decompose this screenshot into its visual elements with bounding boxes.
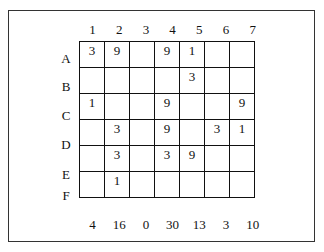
column-header: 3 (132, 22, 159, 38)
grid-cell: 9 (155, 94, 180, 120)
grid-cell (205, 42, 230, 68)
grid-cell (230, 68, 255, 94)
grid-row-c: 1 9 9 (80, 94, 255, 120)
column-header: 2 (106, 22, 133, 38)
grid-cell (130, 68, 155, 94)
row-header: C (56, 108, 76, 124)
grid-cell: 3 (105, 120, 130, 146)
grid-cell: 1 (230, 120, 255, 146)
grid-row-f: 1 (80, 172, 255, 198)
column-total: 13 (186, 217, 213, 233)
grid-cell: 3 (80, 42, 105, 68)
grid-cell (80, 172, 105, 198)
grid-cell: 9 (155, 120, 180, 146)
grid-cell: 3 (180, 68, 205, 94)
grid-cell (230, 42, 255, 68)
grid-cell (205, 146, 230, 172)
grid-cell: 9 (230, 94, 255, 120)
grid-cell (205, 68, 230, 94)
grid-cell (180, 120, 205, 146)
grid-row-b: 3 (80, 68, 255, 94)
column-total: 16 (106, 217, 133, 233)
grid-cell (130, 120, 155, 146)
grid-cell: 9 (155, 42, 180, 68)
row-header: E (56, 167, 76, 183)
grid-cell (180, 94, 205, 120)
grid-cell: 3 (155, 146, 180, 172)
grid-cell (230, 172, 255, 198)
grid-row-e: 3 3 9 (80, 146, 255, 172)
column-header: 1 (79, 22, 106, 38)
column-total: 10 (239, 217, 266, 233)
grid-cell (130, 94, 155, 120)
row-header: F (56, 188, 76, 204)
grid-cell (155, 172, 180, 198)
grid-cell (130, 42, 155, 68)
column-total: 3 (213, 217, 240, 233)
grid-cell (80, 68, 105, 94)
column-header: 7 (239, 22, 266, 38)
grid-cell: 3 (105, 146, 130, 172)
column-total: 0 (132, 217, 159, 233)
grid-cell: 1 (180, 42, 205, 68)
row-header: A (56, 51, 76, 67)
column-total: 30 (159, 217, 186, 233)
grid-cell: 1 (105, 172, 130, 198)
grid-cell: 1 (80, 94, 105, 120)
grid-cell (155, 68, 180, 94)
grid-cell: 9 (180, 146, 205, 172)
grid-cell (80, 120, 105, 146)
grid-cell (180, 172, 205, 198)
grid-cell (230, 146, 255, 172)
column-total: 4 (79, 217, 106, 233)
row-header: B (56, 79, 76, 95)
grid-cell (205, 172, 230, 198)
grid-cell (105, 68, 130, 94)
grid-cell (130, 146, 155, 172)
grid-cell: 3 (205, 120, 230, 146)
grid-row-d: 3 9 3 1 (80, 120, 255, 146)
grid-cell (205, 94, 230, 120)
column-header: 6 (213, 22, 240, 38)
grid-row-a: 3 9 9 1 (80, 42, 255, 68)
matrix-grid: 3 9 9 1 3 1 9 9 3 9 3 1 3 3 9 (79, 41, 255, 198)
column-header: 5 (186, 22, 213, 38)
grid-cell (130, 172, 155, 198)
column-header: 4 (159, 22, 186, 38)
grid-cell (80, 146, 105, 172)
grid-cell (105, 94, 130, 120)
row-header: D (56, 137, 76, 153)
grid-cell: 9 (105, 42, 130, 68)
